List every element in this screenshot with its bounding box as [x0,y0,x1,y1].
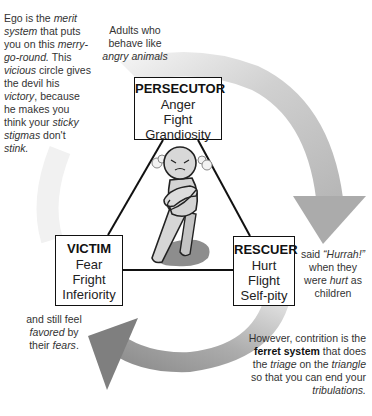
favored-note: and still feel favored by their fears. [18,313,90,352]
note-text-segment: and still feel [26,313,81,325]
note-text-segment: said [301,248,323,260]
note-text-segment: triage [270,358,296,370]
note-text-segment: “Hurrah!” [323,248,365,260]
note-text-segment: on the [297,358,332,370]
note-text-segment: fears [53,339,76,351]
note-text-segment: angry animals [102,50,167,62]
note-text-segment: so that you can end your [251,371,366,383]
note-text-segment: don't [40,129,65,141]
victim-box: VICTIM Fear Fright Inferiority [55,235,123,306]
note-text-segment: hurt [330,274,348,286]
persecutor-box: PERSECUTOR Anger Fight Grandiosity [134,77,222,140]
victim-trait: Inferiority [56,287,122,302]
rescuer-box: RESCUER Hurt Flight Self-pity [233,236,295,306]
hurrah-note: said “Hurrah!” when they were hurt as ch… [297,248,369,300]
note-text-segment: However, contrition is the [249,332,366,344]
note-text-segment: stink. [4,142,29,154]
victim-trait: Fright [56,272,122,287]
rescuer-title: RESCUER [234,242,294,258]
rescuer-trait: Hurt [234,258,294,273]
persecutor-trait: Fight [135,112,221,127]
victim-trait: Fear [56,257,122,272]
note-text-segment: tribulations. [312,384,366,396]
note-text-segment: vicious [4,64,36,76]
persecutor-trait: Anger [135,97,221,112]
rescuer-trait: Flight [234,273,294,288]
angry-person-icon [152,147,212,266]
note-text-segment: This [49,51,72,63]
ego-note: Ego is the merit system that puts you on… [4,12,92,155]
persecutor-trait: Grandiosity [135,127,221,142]
note-text-segment: Ego is the [4,12,54,24]
note-text-segment: victory [4,90,34,102]
note-text-segment: favored [29,326,64,338]
note-text-segment: ferret system [254,345,320,357]
rescuer-trait: Self-pity [234,288,294,303]
note-text-segment: Adults who behave like [108,24,161,49]
adults-note: Adults who behave like angry animals [100,24,170,63]
note-text-segment: triangle [332,358,366,370]
victim-title: VICTIM [56,241,122,257]
however-note: However, contrition is the ferret system… [245,332,366,397]
note-text-segment: . [76,339,79,351]
persecutor-title: PERSECUTOR [135,81,221,97]
